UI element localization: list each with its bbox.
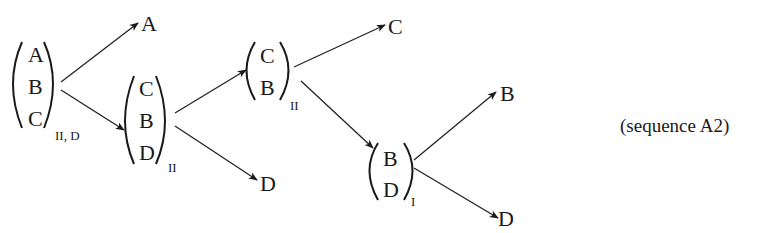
leaf-d: D <box>260 171 276 196</box>
right-paren <box>156 76 165 164</box>
right-paren <box>44 42 53 128</box>
leaf-c: C <box>388 14 403 39</box>
node-item: D <box>383 177 399 202</box>
node-group-abc: A B C II, D <box>13 42 80 143</box>
right-paren <box>404 143 413 200</box>
leaf-b: B <box>500 81 515 106</box>
node-group-cb: C B II <box>247 42 299 113</box>
node-subscript: II <box>290 98 299 113</box>
leaf-a: A <box>141 11 157 36</box>
edge-cb-to-bd <box>301 81 373 148</box>
right-paren <box>280 42 289 100</box>
leaf-d-bottom: D <box>498 206 514 231</box>
node-item: D <box>139 140 155 165</box>
edge-abc-to-a <box>61 23 138 82</box>
edge-bd-to-d <box>414 168 498 218</box>
edge-cbd-to-d <box>175 126 257 180</box>
sequence-caption: (sequence A2) <box>620 115 729 137</box>
left-paren <box>370 143 379 200</box>
node-item: B <box>260 75 275 100</box>
node-item: B <box>383 146 398 171</box>
node-item: C <box>260 43 275 68</box>
node-item: B <box>139 108 154 133</box>
left-paren <box>13 42 22 128</box>
node-group-cbd: C B D II <box>125 76 177 175</box>
node-item: C <box>139 76 154 101</box>
node-item: C <box>28 106 43 131</box>
edge-bd-to-b <box>414 92 496 160</box>
node-subscript: II, D <box>55 128 80 143</box>
edge-cbd-to-cb <box>175 70 246 113</box>
node-item: B <box>28 74 43 99</box>
left-paren <box>247 42 256 100</box>
node-subscript: II <box>168 160 177 175</box>
tree-diagram: A B C II, D A C B D II C B II D C B D I … <box>0 0 779 233</box>
edge-abc-to-cbd <box>61 90 124 130</box>
node-subscript: I <box>411 194 415 209</box>
node-item: A <box>28 42 44 67</box>
edge-cb-to-c <box>294 25 385 67</box>
left-paren <box>125 76 134 164</box>
node-group-bd: B D I <box>370 143 416 209</box>
